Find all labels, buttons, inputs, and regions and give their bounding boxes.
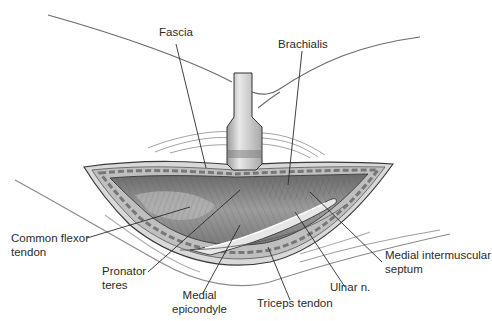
label-fascia: Fascia — [159, 25, 193, 39]
label-medial-epicondyle: Medial epicondyle — [172, 288, 227, 316]
anatomy-figure: Fascia Brachialis Common flexor tendon P… — [0, 0, 492, 321]
label-triceps-tendon: Triceps tendon — [257, 296, 333, 310]
label-medial-intermuscular-septum: Medial intermuscular septum — [385, 248, 491, 276]
label-brachialis: Brachialis — [278, 37, 328, 51]
label-ulnar-nerve: Ulnar n. — [330, 280, 370, 294]
label-pronator-teres: Pronator teres — [102, 264, 146, 292]
retractor — [227, 73, 262, 170]
label-common-flexor-tendon: Common flexor tendon — [11, 231, 89, 259]
